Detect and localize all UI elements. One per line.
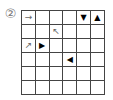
grid-cell-r5-c0[interactable] <box>22 81 36 95</box>
grid-cell-r4-c0[interactable] <box>22 67 36 81</box>
grid-cell-r4-c1[interactable] <box>36 67 50 81</box>
puzzle-number-label: ② <box>3 6 18 21</box>
grid-cell-r4-c4[interactable] <box>77 67 91 81</box>
grid-cell-r2-c1[interactable]: ▶ <box>36 39 50 53</box>
grid-cell-r1-c0[interactable] <box>22 25 36 39</box>
grid-cell-r1-c3[interactable] <box>63 25 77 39</box>
grid-cell-r2-c3[interactable] <box>63 39 77 53</box>
grid-cell-r1-c2[interactable]: ↖ <box>50 25 64 39</box>
grid-cell-r1-c5[interactable] <box>91 25 105 39</box>
triangle-down-icon: ▼ <box>81 14 87 22</box>
grid-cell-r2-c4[interactable] <box>77 39 91 53</box>
grid-cell-r0-c4[interactable]: ▼ <box>77 11 91 25</box>
grid-cell-r3-c5[interactable] <box>91 53 105 67</box>
grid-cell-r0-c1[interactable] <box>36 11 50 25</box>
grid-cell-r0-c2[interactable] <box>50 11 64 25</box>
grid-cell-r0-c3[interactable] <box>63 11 77 25</box>
grid-cell-r5-c4[interactable] <box>77 81 91 95</box>
grid-cell-r3-c2[interactable] <box>50 53 64 67</box>
grid-cell-r3-c0[interactable] <box>22 53 36 67</box>
grid-cell-r3-c4[interactable] <box>77 53 91 67</box>
grid-cell-r2-c0[interactable]: ↗ <box>22 39 36 53</box>
triangle-left-icon: ◀ <box>67 56 73 64</box>
grid-cell-r4-c3[interactable] <box>63 67 77 81</box>
arrow-up-right-icon: ↗ <box>25 41 33 50</box>
grid-cell-r5-c5[interactable] <box>91 81 105 95</box>
grid-cell-r0-c5[interactable]: ▲ <box>91 11 105 25</box>
arrow-up-left-icon: ↖ <box>52 27 60 36</box>
grid-cell-r2-c5[interactable] <box>91 39 105 53</box>
triangle-right-icon: ▶ <box>39 42 45 50</box>
grid-cell-r4-c2[interactable] <box>50 67 64 81</box>
grid-cell-r5-c1[interactable] <box>36 81 50 95</box>
grid-cell-r1-c4[interactable] <box>77 25 91 39</box>
arrow-right-icon: → <box>25 13 33 22</box>
grid-cell-r4-c5[interactable] <box>91 67 105 81</box>
grid-cell-r3-c1[interactable] <box>36 53 50 67</box>
puzzle-grid: → ▼ ▲ ↖ ↗ ▶ ◀ <box>21 10 105 95</box>
grid-cell-r0-c0[interactable]: → <box>22 11 36 25</box>
grid-cell-r1-c1[interactable] <box>36 25 50 39</box>
grid-cell-r5-c3[interactable] <box>63 81 77 95</box>
grid-cell-r5-c2[interactable] <box>50 81 64 95</box>
grid-cell-r3-c3[interactable]: ◀ <box>63 53 77 67</box>
grid-cell-r2-c2[interactable] <box>50 39 64 53</box>
triangle-up-icon: ▲ <box>94 14 100 22</box>
